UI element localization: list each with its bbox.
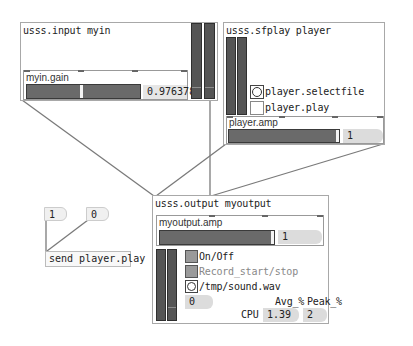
input-gain-value: 0.976378: [147, 86, 195, 97]
selectfile-button[interactable]: [250, 85, 264, 99]
number-box-0[interactable]: 0: [86, 207, 109, 221]
file-path-label: /tmp/sound.wav: [199, 281, 281, 292]
input-module-title: usss.input myin: [23, 25, 110, 36]
sfplay-meter-right: [237, 37, 247, 115]
input-meter-left: [191, 23, 202, 99]
on-off-label: On/Off: [199, 251, 234, 262]
cpu-peak-header: Peak_%: [307, 296, 327, 307]
input-gain-panel: myin.gain 0.976378: [23, 70, 188, 100]
cpu-avg-value: 1.39: [267, 309, 291, 320]
slider-knob[interactable]: [80, 85, 83, 98]
cpu-peak-number: 2: [303, 308, 327, 322]
sfplay-module-title: usss.sfplay player: [226, 25, 331, 36]
send-message-text: send player.play: [46, 252, 130, 266]
on-off-toggle[interactable]: [185, 250, 198, 263]
bang-icon: [187, 282, 196, 291]
slider-knob[interactable]: [336, 130, 339, 142]
file-button[interactable]: [185, 280, 198, 293]
play-label: player.play: [265, 102, 329, 113]
cpu-label: CPU: [241, 309, 258, 320]
output-amp-value: 1: [282, 231, 288, 242]
input-meter-right: [204, 23, 215, 99]
sfplay-amp-label: player.amp: [229, 117, 278, 128]
cpu-avg-number: 1.39: [263, 308, 299, 322]
output-level-value: 0: [189, 296, 195, 307]
output-meter-left: [156, 249, 166, 321]
record-toggle[interactable]: [185, 265, 198, 278]
output-amp-slider[interactable]: [159, 230, 275, 245]
output-module[interactable]: usss.output myoutput myoutput.amp 1 On/O…: [152, 195, 329, 324]
number-box-1-value: 1: [49, 209, 55, 220]
send-player-play-message[interactable]: send player.play: [45, 251, 131, 267]
sfplay-amp-slider[interactable]: [228, 129, 340, 143]
sfplay-amp-panel: player.amp 1: [226, 116, 384, 144]
play-toggle[interactable]: [250, 101, 264, 115]
output-amp-panel: myoutput.amp 1: [156, 215, 324, 246]
output-level-number[interactable]: 0: [185, 295, 213, 309]
sfplay-amp-number[interactable]: 1: [343, 129, 383, 143]
cpu-peak-value: 2: [307, 309, 313, 320]
selectfile-label: player.selectfile: [265, 86, 364, 97]
sfplay-meter-left: [226, 37, 236, 115]
output-module-title: usss.output myoutput: [155, 198, 271, 209]
input-gain-slider[interactable]: [26, 84, 141, 99]
cpu-avg-header: Avg_%: [275, 296, 304, 307]
bang-icon: [252, 87, 262, 97]
sfplay-module[interactable]: usss.sfplay player player.selectfile pla…: [223, 22, 385, 145]
slider-knob[interactable]: [271, 231, 274, 244]
input-module[interactable]: usss.input myin myin.gain 0.976378: [20, 22, 218, 101]
input-gain-number[interactable]: 0.976378: [143, 85, 187, 99]
number-box-0-value: 0: [91, 209, 97, 220]
output-amp-number[interactable]: 1: [278, 230, 322, 244]
record-label: Record_start/stop: [199, 266, 298, 277]
output-amp-label: myoutput.amp: [159, 217, 222, 228]
sfplay-amp-value: 1: [347, 130, 353, 141]
output-meter-right: [167, 249, 177, 321]
input-gain-label: myin.gain: [26, 72, 69, 83]
number-box-1[interactable]: 1: [44, 207, 67, 221]
